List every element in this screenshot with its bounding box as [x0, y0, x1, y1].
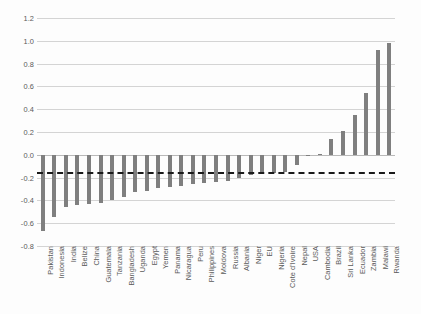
x-axis-tick-label: Yemen	[161, 246, 170, 269]
x-axis-tick-label: India	[69, 246, 78, 262]
bar	[179, 155, 183, 186]
bar	[87, 155, 91, 204]
bar	[318, 154, 322, 155]
x-axis-tick-label: Malawi	[381, 246, 390, 269]
bar	[202, 155, 206, 184]
x-axis-tick-label: USA	[311, 246, 320, 261]
x-axis-tick-label: Bangladesh	[127, 246, 136, 286]
bar	[226, 155, 230, 181]
bar	[364, 93, 368, 155]
x-axis-tick-label: Egypt	[150, 246, 159, 265]
bar	[376, 50, 380, 155]
x-axis-tick-label: Rwanda	[392, 246, 401, 273]
y-axis-tick-label: 1.0	[8, 36, 34, 45]
bar	[75, 155, 79, 205]
x-axis-tick-label: Sri Lanka	[346, 246, 355, 278]
x-axis-tick-label: Nepal	[300, 246, 309, 266]
x-axis-tick-label: Nicaragua	[184, 246, 193, 280]
y-axis-tick-label: -0.6	[8, 219, 34, 228]
bar	[295, 155, 299, 165]
y-axis-tick-label: 1.2	[8, 14, 34, 23]
bar	[387, 43, 391, 155]
y-axis-tick-label: 0.8	[8, 59, 34, 68]
x-axis-tick-label: Zambia	[369, 246, 378, 271]
bar	[283, 155, 287, 172]
x-axis-tick-label: Nigeria	[277, 246, 286, 270]
x-axis-tick-label: Philippines	[207, 246, 216, 282]
x-axis-tick-label: EU	[265, 246, 274, 256]
bar	[191, 155, 195, 185]
x-axis-tick-label: Belize	[80, 246, 89, 266]
bar	[99, 155, 103, 203]
bar	[237, 155, 241, 178]
bar	[122, 155, 126, 197]
y-axis: 1.21.00.80.60.40.20.0-0.2-0.4-0.6-0.8	[8, 0, 34, 314]
bar	[306, 155, 310, 156]
x-axis-tick-label: Niger	[254, 246, 263, 264]
bar	[329, 139, 333, 155]
x-axis-tick-label: Indonesia	[57, 246, 66, 279]
bar	[110, 155, 114, 201]
x-axis-tick-label: Uganda	[138, 246, 147, 272]
y-axis-tick-label: 0.6	[8, 82, 34, 91]
y-axis-tick-label: 0.4	[8, 105, 34, 114]
x-axis-tick-label: Moldova	[219, 246, 228, 274]
x-axis-tick-label: Albania	[242, 246, 251, 271]
reference-line	[37, 172, 395, 174]
x-axis-tick-label: Cambodia	[323, 246, 332, 280]
bar	[168, 155, 172, 187]
x-axis-labels: PakistanIndonesiaIndiaBelizeChinaGuatema…	[37, 246, 395, 314]
bar	[214, 155, 218, 182]
bar	[341, 131, 345, 155]
x-axis-tick-label: Tanzania	[115, 246, 124, 276]
bar-chart: 1.21.00.80.60.40.20.0-0.2-0.4-0.6-0.8 Pa…	[0, 0, 421, 314]
x-axis-tick-label: Russia	[231, 246, 240, 269]
y-axis-tick-label: -0.4	[8, 196, 34, 205]
bar-series	[37, 18, 395, 246]
plot-area	[37, 18, 395, 246]
y-axis-tick-label: -0.2	[8, 173, 34, 182]
bar	[272, 155, 276, 173]
y-axis-tick-label: 0.2	[8, 128, 34, 137]
bar	[353, 115, 357, 155]
y-axis-tick-label: -0.8	[8, 242, 34, 251]
x-axis-tick-label: China	[92, 246, 101, 266]
x-axis-tick-label: Peru	[196, 246, 205, 262]
x-axis-tick-label: Brazil	[334, 246, 343, 265]
bar	[64, 155, 68, 207]
bar	[52, 155, 56, 218]
y-axis-tick-label: 0.0	[8, 150, 34, 159]
x-axis-tick-label: Guatemala	[104, 246, 113, 283]
x-axis-tick-label: Cote d'Ivoire	[288, 246, 297, 288]
x-axis-tick-label: Ecuador	[358, 246, 367, 274]
bar	[41, 155, 45, 231]
x-axis-tick-label: Pakistan	[46, 246, 55, 275]
x-axis-tick-label: Panama	[173, 246, 182, 274]
